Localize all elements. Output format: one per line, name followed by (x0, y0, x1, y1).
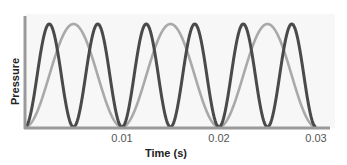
x-tick-label: 0.02 (208, 132, 229, 144)
x-axis-label: Time (s) (145, 147, 187, 159)
x-tick-labels: 0.010.020.03 (111, 132, 326, 144)
pressure-time-chart: 0.010.020.03 Time (s) Pressure (0, 0, 347, 165)
x-tick-label: 0.03 (305, 132, 326, 144)
x-tick-label: 0.01 (111, 132, 132, 144)
y-axis-label: Pressure (9, 58, 21, 105)
